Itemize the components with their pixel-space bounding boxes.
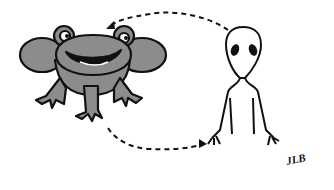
dashed-arrow-bottom xyxy=(108,128,207,149)
frog-drawing xyxy=(20,26,166,121)
frog-alien-illustration xyxy=(0,0,334,190)
alien-drawing xyxy=(208,27,279,145)
